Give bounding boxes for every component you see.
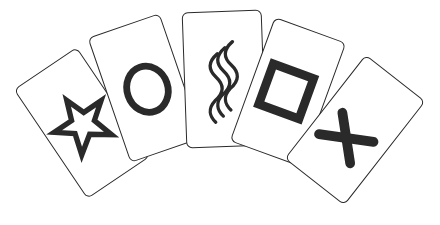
- zener-cards-fan: Zener cards Star card Circle card Wavy l…: [0, 0, 440, 225]
- illustration-title: Zener cards: [0, 0, 1, 1]
